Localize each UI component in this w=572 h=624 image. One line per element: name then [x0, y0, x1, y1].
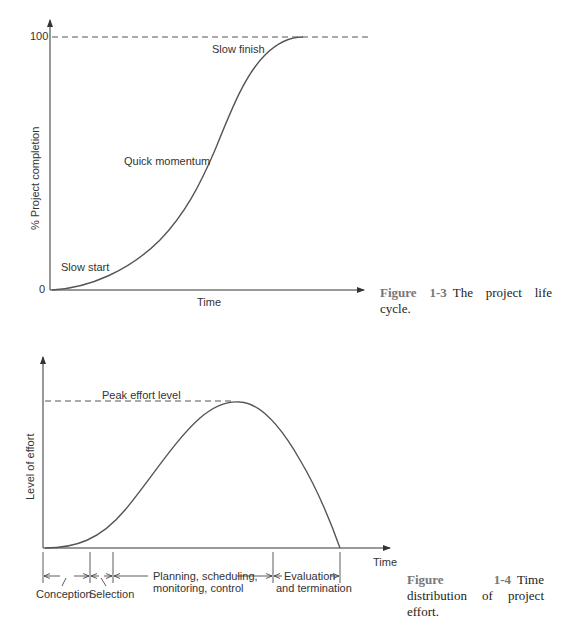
- fig1-annotation-slow-start: Slow start: [61, 262, 109, 273]
- fig1-annotation-quick-momentum: Quick momentum: [124, 156, 210, 167]
- fig2-phase-evaluation-line1: Evaluation: [284, 570, 338, 582]
- fig2-y-axis-label: Level of effort: [25, 434, 36, 500]
- fig2-chart: [43, 357, 390, 586]
- fig2-phase-planning-line2: monitoring, control: [153, 582, 233, 594]
- fig2-phase-selection: Selection: [89, 588, 134, 600]
- fig2-caption: Figure 1-4Time distribution of project e…: [407, 572, 544, 620]
- fig1-caption-label: Figure 1-3: [380, 285, 447, 300]
- fig1-y-tick-100: 100: [30, 31, 48, 42]
- fig2-x-axis-label: Time: [373, 557, 397, 568]
- fig1-x-axis-label: Time: [197, 297, 221, 308]
- fig2-peak-label: Peak effort level: [102, 390, 181, 401]
- fig2-phase-evaluation: Evaluation and termination: [276, 570, 338, 594]
- fig1-y-axis-label: % Project completion: [30, 127, 41, 230]
- fig2-caption-label: Figure 1-4: [407, 572, 511, 587]
- fig2-phase-planning: Planning, scheduling, monitoring, contro…: [153, 570, 233, 594]
- fig2-effort-curve: [45, 402, 340, 548]
- fig1-annotation-slow-finish: Slow finish: [212, 44, 265, 55]
- fig2-phase-evaluation-line2: and termination: [276, 582, 338, 594]
- fig1-caption: Figure 1-3The project life cycle.: [380, 285, 552, 317]
- fig1-y-tick-0: 0: [39, 284, 45, 295]
- fig2-phase-conception: Conception: [36, 588, 92, 600]
- fig2-phase-planning-line1: Planning, scheduling,: [153, 570, 233, 582]
